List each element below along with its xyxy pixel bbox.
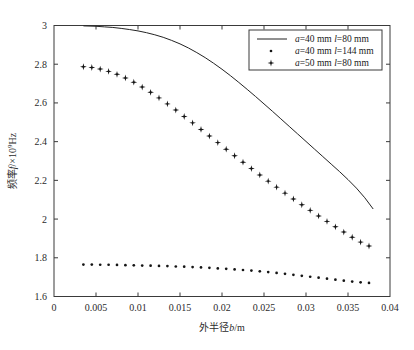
series-dot-marker xyxy=(149,264,152,267)
series-dot-marker xyxy=(183,265,186,268)
series-dot-marker xyxy=(300,274,303,277)
legend-label: a=40 mm l=80 mm xyxy=(295,34,369,44)
chart-legend: a=40 mm l=80 mma=40 mm l=144 mma=50 mm l… xyxy=(249,30,382,70)
y-tick-label: 2 xyxy=(42,214,47,225)
y-tick-label: 2.4 xyxy=(35,136,48,147)
series-dot-marker xyxy=(284,273,287,276)
series-dot-marker xyxy=(132,264,135,267)
y-tick-label: 2.6 xyxy=(35,97,48,108)
x-axis-tick-labels: 00.0050.010.0150.020.0250.030.0350.04 xyxy=(52,302,399,313)
series-dot-marker xyxy=(208,267,211,270)
y-tick-label: 1.8 xyxy=(35,252,48,263)
series-dot-marker xyxy=(141,264,144,267)
series-dot-marker xyxy=(174,265,177,268)
series-dot-marker xyxy=(250,269,253,272)
series-dot-marker xyxy=(351,280,354,283)
legend-sample-dot xyxy=(270,50,273,53)
series-dot-marker xyxy=(124,264,127,267)
series-dot-marker xyxy=(225,267,228,270)
series-dot-marker xyxy=(82,263,85,266)
legend-label: a=50 mm l=80 mm xyxy=(295,58,369,68)
x-tick-label: 0 xyxy=(52,302,57,313)
y-axis-title: 频率f/×109Hz xyxy=(6,132,18,189)
series-dot-marker xyxy=(267,271,270,274)
series-dot-marker xyxy=(292,273,295,276)
series-dot-marker xyxy=(368,282,371,285)
x-tick-label: 0.015 xyxy=(169,302,192,313)
series-dot-marker xyxy=(116,264,119,267)
y-tick-label: 2.2 xyxy=(35,175,48,186)
x-axis-title: 外半径b/m xyxy=(199,321,245,333)
series-dot-marker xyxy=(242,269,245,272)
series-dot-marker xyxy=(275,272,278,275)
x-tick-label: 0.01 xyxy=(129,302,147,313)
x-tick-label: 0.04 xyxy=(381,302,399,313)
x-tick-label: 0.035 xyxy=(337,302,360,313)
series-dot-marker xyxy=(233,268,236,271)
series-dot-marker xyxy=(216,267,219,270)
y-tick-label: 1.6 xyxy=(35,291,48,302)
series-dot-marker xyxy=(158,265,161,268)
series-dot-marker xyxy=(334,278,337,281)
series-dot-marker xyxy=(99,263,102,266)
series-dot-marker xyxy=(107,263,110,266)
series-dot-marker xyxy=(359,281,362,284)
chart-figure: 00.0050.010.0150.020.0250.030.0350.04 1.… xyxy=(0,0,414,350)
series-dot-marker xyxy=(309,275,312,278)
y-tick-label: 2.8 xyxy=(35,59,48,70)
x-tick-label: 0.02 xyxy=(213,302,231,313)
legend-label: a=40 mm l=144 mm xyxy=(295,46,374,56)
series-dot-marker xyxy=(326,277,329,280)
series-dot-marker xyxy=(258,270,261,273)
series-dot-marker xyxy=(191,266,194,269)
x-tick-label: 0.005 xyxy=(85,302,108,313)
series-dot-marker xyxy=(317,276,320,279)
series-dot-marker xyxy=(342,279,345,282)
y-tick-label: 3 xyxy=(42,20,47,31)
chart-plot-area: 00.0050.010.0150.020.0250.030.0350.04 1.… xyxy=(0,0,414,350)
series-dot-marker xyxy=(90,263,93,266)
x-tick-label: 0.025 xyxy=(253,302,276,313)
series-dot-marker xyxy=(166,265,169,268)
x-tick-label: 0.03 xyxy=(297,302,315,313)
series-dot-marker xyxy=(200,266,203,269)
